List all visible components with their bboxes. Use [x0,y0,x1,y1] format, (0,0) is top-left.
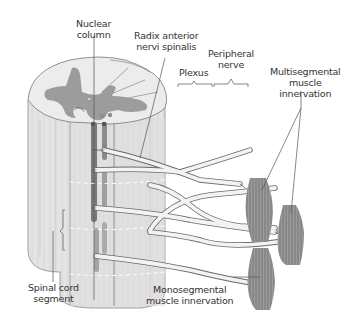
label-line: nerve [208,59,254,70]
label-line: muscle [270,77,341,88]
label-line: Peripheral [208,48,254,59]
nuclear-column-2 [102,122,107,160]
label-spinal-cord-segment: Spinal cord segment [28,282,79,304]
label-multisegmental: Multisegmental muscle innervation [270,66,341,99]
label-line: Multisegmental [270,66,341,77]
label-line: Spinal cord [28,282,79,293]
muscle-upper [246,178,274,242]
label-line: Radix anterior [134,30,198,41]
muscle-middle [278,205,304,265]
label-nuclear-column: Nuclear column [76,18,111,40]
spinal-cord [28,57,167,308]
label-line: segment [28,293,79,304]
label-line: muscle innervation [146,295,233,306]
label-peripheral-nerve: Peripheral nerve [208,48,254,70]
label-line: Plexus [179,67,208,78]
label-plexus: Plexus [179,67,208,78]
label-line: column [76,29,111,40]
label-line: innervation [270,88,341,99]
label-radix-anterior: Radix anterior nervi spinalis [134,30,198,52]
muscle-lower [248,248,275,310]
label-line: nervi spinalis [134,41,198,52]
label-monosegmental: Monosegmental muscle innervation [146,284,233,306]
label-line: Nuclear [76,18,111,29]
label-line: Monosegmental [146,284,233,295]
